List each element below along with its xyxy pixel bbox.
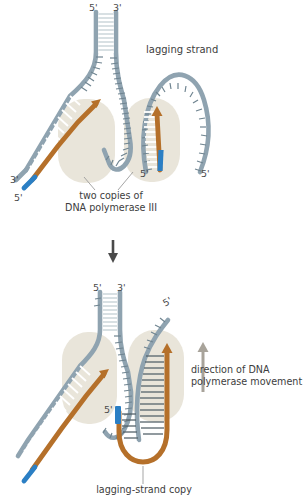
label-top-3prime-lower-left: 3'	[10, 174, 19, 186]
okazaki-primer-blue-top	[160, 150, 161, 171]
label-top-5prime-lower-left: 5'	[14, 192, 23, 204]
label-bottom-5prime-loop: 5'	[104, 404, 113, 416]
label-top-5prime-fork: 5'	[140, 168, 149, 180]
label-top-5prime-left: 5'	[89, 2, 98, 14]
label-top-3prime-right: 3'	[113, 2, 122, 14]
dna-replication-figure	[0, 0, 308, 504]
label-lagging-strand: lagging strand	[146, 44, 218, 56]
enzyme-caption-line2: DNA polymerase III	[51, 202, 171, 214]
label-bottom-3prime-right: 3'	[117, 282, 126, 294]
label-top-5prime-right: 5'	[201, 168, 210, 180]
enzyme-caption-line1: two copies of	[61, 190, 161, 202]
direction-caption-line2: polymerase movement	[191, 376, 302, 388]
label-bottom-5prime-left: 5'	[93, 282, 102, 294]
direction-caption-line1: direction of DNA	[191, 364, 270, 376]
lagging-copy-primer-blue	[115, 406, 121, 424]
lagging-strand-copy-caption: lagging-strand copy	[84, 484, 204, 496]
